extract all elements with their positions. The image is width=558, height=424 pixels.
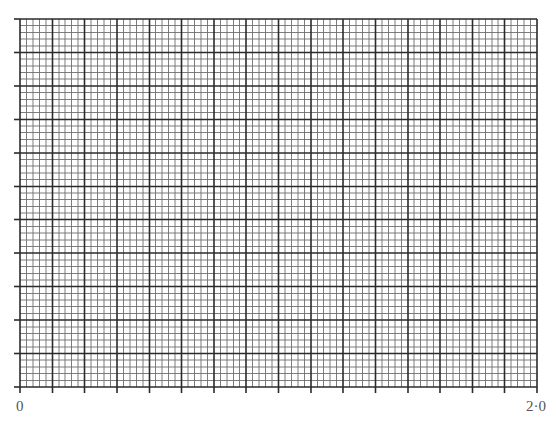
x-axis-start-label: 0 <box>16 398 24 414</box>
graph-paper-grid <box>0 0 558 424</box>
x-axis-end-label: 2·0 <box>526 398 546 414</box>
axis-ticks <box>14 19 537 393</box>
